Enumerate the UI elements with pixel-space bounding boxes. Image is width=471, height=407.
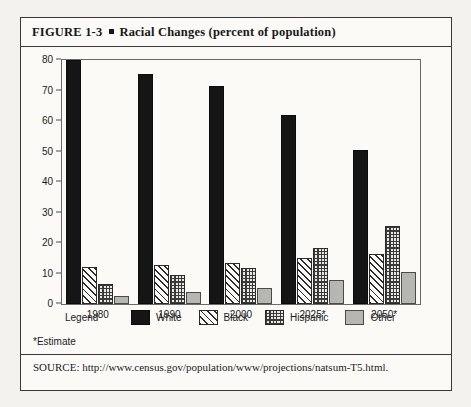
y-axis-tick-mark	[56, 272, 61, 273]
bar-other-2050	[401, 272, 416, 304]
legend-swatch-hispanic	[265, 310, 284, 325]
bar-black-1980	[82, 267, 97, 304]
page-title: FIGURE 1-3Racial Changes (percent of pop…	[21, 25, 336, 40]
y-axis-tick: 40	[31, 176, 61, 187]
bar-hispanic-1980	[98, 284, 113, 304]
chart-legend: Legend WhiteBlackHispanicOther	[65, 307, 435, 327]
bar-black-1990	[154, 265, 169, 304]
legend-swatch-other	[345, 310, 364, 325]
legend-label: White	[156, 312, 182, 323]
y-axis-tick: 50	[31, 145, 61, 156]
y-axis-tick-label: 40	[31, 176, 53, 187]
legend-label: Black	[224, 312, 248, 323]
bar-white-1980	[66, 60, 81, 304]
legend-swatch-white	[131, 310, 150, 325]
bar-black-2050	[369, 254, 384, 304]
legend-label: Other	[370, 312, 395, 323]
bar-black-2025	[297, 258, 312, 304]
bar-white-1990	[138, 74, 153, 304]
y-axis-tick: 10	[31, 267, 61, 278]
y-axis-tick-mark	[56, 181, 61, 182]
legend-item-hispanic: Hispanic	[265, 310, 328, 325]
legend-item-other: Other	[345, 310, 395, 325]
bar-white-2000	[209, 86, 224, 304]
y-axis-tick: 20	[31, 237, 61, 248]
bar-other-1990	[186, 292, 201, 304]
bar-group	[205, 60, 277, 304]
bar-black-2000	[225, 263, 240, 304]
source-divider	[21, 354, 451, 355]
y-axis-tick-label: 80	[31, 54, 53, 65]
figure-page: FIGURE 1-3Racial Changes (percent of pop…	[0, 0, 471, 407]
figure-container: FIGURE 1-3Racial Changes (percent of pop…	[20, 17, 452, 391]
y-axis-tick-label: 50	[31, 145, 53, 156]
source-line: SOURCE: http://www.census.gov/population…	[33, 361, 388, 373]
y-axis-tick-label: 60	[31, 115, 53, 126]
y-axis-tick-label: 10	[31, 267, 53, 278]
bar-other-2000	[257, 288, 272, 304]
legend-title: Legend	[65, 312, 131, 323]
figure-title-text: Racial Changes (percent of population)	[119, 25, 335, 39]
bar-groups	[62, 60, 420, 304]
legend-item-white: White	[131, 310, 182, 325]
y-axis-tick: 0	[31, 298, 61, 309]
bar-white-2025	[281, 115, 296, 304]
bar-hispanic-1990	[170, 275, 185, 304]
y-axis-tick-mark	[56, 59, 61, 60]
y-axis-tick-mark	[56, 211, 61, 212]
bar-group	[134, 60, 206, 304]
y-axis-tick: 70	[31, 84, 61, 95]
y-axis-tick-mark	[56, 89, 61, 90]
footnote-estimate: *Estimate	[33, 336, 76, 347]
bar-hispanic-2000	[241, 268, 256, 304]
y-axis-tick: 80	[31, 54, 61, 65]
legend-swatch-black	[199, 310, 218, 325]
y-axis-tick-mark	[56, 120, 61, 121]
legend-item-black: Black	[199, 310, 248, 325]
y-axis-tick-label: 30	[31, 206, 53, 217]
y-axis-tick: 60	[31, 115, 61, 126]
y-axis-tick-mark	[56, 242, 61, 243]
figure-number: FIGURE 1-3	[32, 25, 102, 39]
legend-label: Hispanic	[290, 312, 328, 323]
bar-other-1980	[114, 296, 129, 304]
y-axis-tick-label: 20	[31, 237, 53, 248]
y-axis-tick-label: 70	[31, 84, 53, 95]
bar-white-2050	[353, 150, 368, 304]
bar-group	[277, 60, 349, 304]
bar-hispanic-2050	[385, 226, 400, 304]
bar-group	[62, 60, 134, 304]
y-axis-tick-mark	[56, 150, 61, 151]
square-bullet-icon	[109, 29, 114, 34]
y-axis-tick-label: 0	[31, 298, 53, 309]
bar-hispanic-2025	[313, 248, 328, 304]
y-axis-tick: 30	[31, 206, 61, 217]
y-axis-tick-mark	[56, 303, 61, 304]
bar-other-2025	[329, 280, 344, 304]
figure-title-bar: FIGURE 1-3Racial Changes (percent of pop…	[21, 18, 451, 47]
bar-group	[348, 60, 420, 304]
